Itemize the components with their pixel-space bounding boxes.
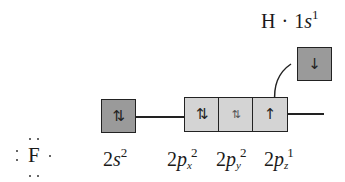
orbital-label-superscript: 1 [287,145,294,160]
paired-electrons-icon: ⇅ [112,109,125,124]
orbital-label-subscript: y [236,159,241,171]
orbital-label-n: 2 [103,148,113,170]
connector-line-right [287,113,324,115]
orbital-label-2py: 2py2 [216,146,246,171]
orbital-label-superscript: 2 [240,145,247,160]
connector-line-left [135,116,185,118]
lewis-dot-top-1 [29,138,31,140]
orbital-label-n: 2 [264,148,274,170]
spin-up-arrow-icon: ↑ [264,107,277,122]
orbital-label-subscript: z [284,159,288,171]
orbital-label-letter: p [226,148,236,170]
orbital-label-subscript: x [187,159,192,171]
orbital-label-letter: s [113,148,121,170]
lewis-dot-right [49,155,51,157]
orbital-label-2pz: 2pz1 [264,146,294,171]
orbital-box-2py: ⇅ [218,97,254,132]
fluorine-symbol: F [28,145,40,166]
lewis-dot-bottom-1 [29,175,31,177]
orbital-label-superscript: 2 [191,145,198,160]
lewis-dot-top-2 [37,138,39,140]
paired-electrons-icon: ⇅ [196,107,209,122]
orbital-label-2px: 2px2 [167,146,197,171]
orbital-box-2px: ⇅ [184,97,220,132]
orbital-box-2s: ⇅ [101,99,136,133]
paired-electrons-icon: ⇅ [231,109,240,120]
lewis-dot-left-2 [16,159,18,161]
lewis-dot-left-1 [16,150,18,152]
lewis-dot-bottom-2 [37,175,39,177]
orbital-box-2pz: ↑ [252,97,288,132]
orbital-label-letter: p [177,148,187,170]
orbital-label-superscript: 2 [121,145,128,160]
orbital-label-letter: p [274,148,284,170]
orbital-label-2s: 2s2 [103,146,127,169]
orbital-label-n: 2 [216,148,226,170]
orbital-label-n: 2 [167,148,177,170]
